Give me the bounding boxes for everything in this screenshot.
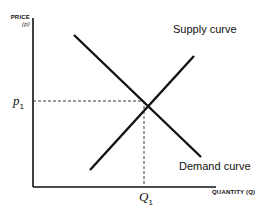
equilibrium-price-label: p1 <box>13 93 24 111</box>
x-axis-title: QUANTITY (Q) <box>212 189 255 196</box>
y-axis-symbol: (p) <box>4 21 30 28</box>
y-axis-title: PRICE (p) <box>4 14 30 28</box>
supply-curve-label: Supply curve <box>173 23 237 35</box>
demand-curve <box>74 35 201 157</box>
y-axis-label: PRICE <box>4 14 30 21</box>
equilibrium-quantity-label: Q1 <box>139 189 153 207</box>
supply-curve <box>90 56 194 170</box>
demand-curve-label: Demand curve <box>179 160 251 172</box>
